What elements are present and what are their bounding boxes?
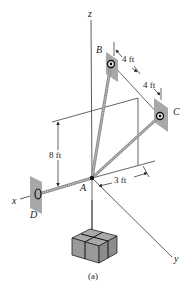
dimension-8ft-label: 8 ft [49, 150, 62, 160]
dimension-3ft-line-left [99, 183, 112, 186]
y-axis-label: y [173, 253, 179, 264]
dimension-3ft-ext [143, 166, 149, 177]
point-label-C: C [173, 106, 180, 117]
dimension-4ft-arrow-C [154, 89, 160, 95]
statics-diagram: z x y B C D A 8 ft [0, 0, 192, 299]
pulley-B-hub [110, 63, 113, 66]
dimension-3ft-line-right [134, 173, 147, 177]
pulley-C-hub [159, 115, 162, 118]
point-label-D: D [29, 209, 38, 220]
figure-caption: (a) [88, 271, 98, 281]
crate [72, 229, 117, 263]
dimension-4ft-label-B: 4 ft [122, 54, 135, 64]
dimension-3ft-label: 3 ft [114, 175, 127, 185]
point-label-B: B [96, 44, 102, 55]
point-label-A: A [79, 182, 87, 193]
dimension-4ft-label-C: 4 ft [143, 80, 156, 90]
z-axis-label: z [87, 8, 92, 19]
frame-line-top [52, 98, 138, 122]
x-axis-label: x [11, 195, 17, 206]
z-axis [91, 20, 92, 178]
